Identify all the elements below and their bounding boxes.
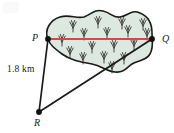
segment-pr <box>39 39 48 112</box>
point-label-q: Q <box>162 34 169 44</box>
point-p-marker <box>45 36 51 42</box>
point-q-marker <box>149 36 155 42</box>
point-label-p: P <box>32 33 38 43</box>
point-r-marker <box>36 109 42 115</box>
point-label-r: R <box>34 118 40 128</box>
distance-label-pr: 1.8 km <box>7 65 35 75</box>
marsh-geometry-figure: P Q R 1.8 km <box>0 0 174 133</box>
